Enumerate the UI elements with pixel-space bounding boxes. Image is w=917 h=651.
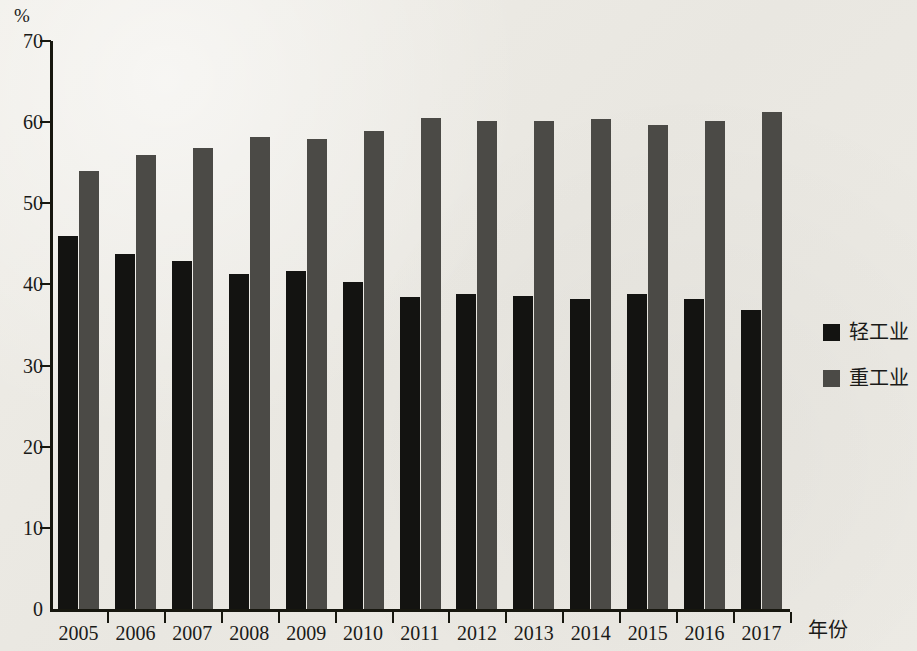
bar-heavy-industry [193, 148, 213, 609]
x-axis-title: 年份 [808, 620, 848, 640]
legend-item: 轻工业 [823, 322, 909, 342]
x-tick-mark [619, 612, 621, 623]
x-tick-label: 2006 [107, 623, 164, 643]
x-tick-label: 2012 [448, 623, 505, 643]
y-axis-unit-label: % [14, 6, 30, 25]
x-tick-label: 2015 [619, 623, 676, 643]
bar-heavy-industry [591, 119, 611, 609]
bar-heavy-industry [534, 121, 554, 609]
x-tick-label: 2011 [392, 623, 449, 643]
legend: 轻工业重工业 [823, 322, 909, 414]
x-tick-label: 2008 [221, 623, 278, 643]
x-tick-label: 2017 [733, 623, 790, 643]
y-tick-mark [40, 527, 51, 529]
x-tick-mark [335, 612, 337, 623]
x-tick-mark [448, 612, 450, 623]
x-tick-label: 2009 [278, 623, 335, 643]
bar-heavy-industry [250, 137, 270, 609]
legend-item: 重工业 [823, 368, 909, 388]
x-tick-label: 2005 [50, 623, 107, 643]
bar-light-industry [684, 299, 704, 609]
x-tick-label: 2010 [335, 623, 392, 643]
bar-light-industry [570, 299, 590, 609]
bar-heavy-industry [307, 139, 327, 609]
plot-area: 010203040506070 200520062007200820092010… [50, 41, 790, 612]
bar-heavy-industry [421, 118, 441, 609]
bar-heavy-industry [79, 171, 99, 609]
legend-label: 重工业 [849, 368, 909, 388]
x-tick-mark [221, 612, 223, 623]
x-tick-mark [676, 612, 678, 623]
bar-heavy-industry [762, 112, 782, 609]
x-tick-label: 2016 [676, 623, 733, 643]
x-tick-mark [562, 612, 564, 623]
y-tick-mark [40, 446, 51, 448]
bar-light-industry [229, 274, 249, 609]
bar-light-industry [343, 282, 363, 609]
y-tick-mark [40, 121, 51, 123]
y-tick-mark [40, 365, 51, 367]
bar-light-industry [627, 294, 647, 609]
bar-light-industry [115, 254, 135, 609]
bar-light-industry [456, 294, 476, 609]
bar-heavy-industry [477, 121, 497, 609]
legend-swatch-icon [823, 324, 840, 341]
legend-label: 轻工业 [849, 322, 909, 342]
bar-chart: % 010203040506070 2005200620072008200920… [0, 0, 917, 651]
x-tick-label: 2013 [505, 623, 562, 643]
x-tick-mark [790, 612, 792, 623]
legend-swatch-icon [823, 370, 840, 387]
bar-light-industry [400, 297, 420, 609]
x-tick-mark [164, 612, 166, 623]
bar-heavy-industry [705, 121, 725, 609]
bar-light-industry [513, 296, 533, 609]
x-tick-mark [392, 612, 394, 623]
bar-light-industry [741, 310, 761, 609]
bar-heavy-industry [364, 131, 384, 609]
y-tick-mark [40, 202, 51, 204]
y-tick-mark [40, 283, 51, 285]
y-tick-label: 0 [33, 599, 43, 619]
bar-light-industry [286, 271, 306, 609]
x-tick-mark [278, 612, 280, 623]
bar-light-industry [58, 236, 78, 609]
bar-heavy-industry [648, 125, 668, 609]
x-axis-line [50, 609, 790, 612]
x-tick-mark [505, 612, 507, 623]
x-tick-mark [107, 612, 109, 623]
bar-heavy-industry [136, 155, 156, 609]
x-tick-mark [733, 612, 735, 623]
y-tick-mark [40, 40, 51, 42]
x-tick-label: 2007 [164, 623, 221, 643]
x-tick-label: 2014 [562, 623, 619, 643]
bar-light-industry [172, 261, 192, 609]
